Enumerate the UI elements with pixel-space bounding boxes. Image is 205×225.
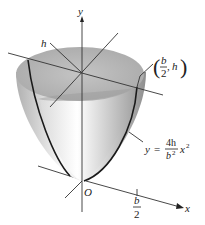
x-axis-label: x bbox=[184, 202, 190, 214]
x-tick-frac-den: 2 bbox=[134, 208, 140, 220]
eq-equals: = bbox=[154, 143, 160, 155]
point-label: ( b 2 , h ) bbox=[153, 54, 187, 79]
eq-lhs: y bbox=[144, 143, 150, 155]
x-axis bbox=[86, 181, 180, 207]
equation-leader bbox=[129, 132, 143, 142]
x-tick-frac-num: b bbox=[134, 194, 140, 206]
point-sep: , bbox=[167, 60, 170, 72]
eq-frac-den-exp: 2 bbox=[172, 149, 176, 157]
x-tick-label: b 2 bbox=[133, 194, 141, 220]
equation-label: y = 4h b 2 x 2 bbox=[144, 137, 190, 161]
point-close-paren: ) bbox=[180, 54, 187, 79]
origin-label: O bbox=[84, 186, 92, 198]
paraboloid-diagram: y h O x ( b 2 , h ) y = 4h b 2 x 2 b 2 bbox=[0, 0, 205, 225]
y-axis-label: y bbox=[77, 5, 83, 17]
eq-frac-den: b bbox=[166, 150, 171, 161]
eq-var: x bbox=[179, 143, 185, 155]
z-axis-lower bbox=[65, 181, 82, 198]
x-axis-arrow bbox=[176, 203, 184, 209]
eq-var-exp: 2 bbox=[186, 142, 190, 150]
eq-frac-num: 4h bbox=[166, 137, 176, 148]
point-open-paren: ( bbox=[153, 54, 160, 79]
point-frac-den: 2 bbox=[161, 67, 167, 79]
point-h: h bbox=[172, 60, 178, 72]
h-label: h bbox=[41, 37, 47, 49]
